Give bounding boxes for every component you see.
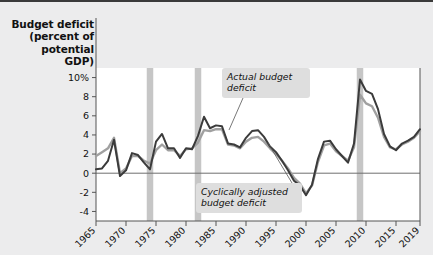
x-axis-tick-label-5: 1990 xyxy=(223,225,248,250)
plot-container: 10%86420-2-41965197019751980198519901995… xyxy=(0,2,433,255)
y-axis-tick-label-0: 10% xyxy=(68,72,89,83)
y-axis-tick-label-7: -4 xyxy=(80,206,89,217)
x-axis-tick-label-1: 1970 xyxy=(103,225,128,250)
x-axis-tick-label-2: 1975 xyxy=(133,225,158,250)
recession-band-2009 xyxy=(357,68,364,221)
x-axis-tick-label-6: 1995 xyxy=(253,225,278,250)
x-axis-tick-label-3: 1980 xyxy=(163,225,188,250)
x-axis-tick-label-7: 2000 xyxy=(283,225,308,250)
y-axis-tick-label-3: 4 xyxy=(83,129,89,140)
x-axis-tick-label-0: 1965 xyxy=(73,225,98,250)
y-axis-tick-label-4: 2 xyxy=(83,148,89,159)
x-axis-tick-label-4: 1985 xyxy=(193,225,218,250)
y-axis-tick-label-2: 6 xyxy=(83,110,89,121)
x-axis-tick-label-10: 2015 xyxy=(373,225,398,250)
x-axis-tick-label-9: 2010 xyxy=(343,225,368,250)
annotation-cyclically-adjusted-budget-deficit: Cyclically adjusted budget deficit xyxy=(196,183,302,213)
y-axis-tick-label-1: 8 xyxy=(83,91,89,102)
x-axis-tick-label-11: 2019 xyxy=(397,225,422,250)
x-axis-tick-label-8: 2005 xyxy=(313,225,338,250)
recession-band-1974 xyxy=(147,68,154,221)
y-axis-tick-label-5: 0 xyxy=(83,168,89,179)
chart-svg: 10%86420-2-41965197019751980198519901995… xyxy=(0,2,433,255)
chart-frame: Budget deficit (percent of potential GDP… xyxy=(0,0,433,255)
y-axis-tick-label-6: -2 xyxy=(80,187,89,198)
annotation-actual-budget-deficit: Actual budget deficit xyxy=(222,68,310,98)
